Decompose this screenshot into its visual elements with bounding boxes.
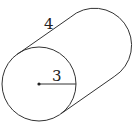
bottom-tangent-line [61, 77, 114, 114]
length-label: 4 [44, 15, 54, 33]
radius-label: 3 [52, 67, 62, 85]
cylinder-diagram: 4 3 [0, 0, 135, 124]
back-circle-arc [70, 8, 131, 76]
center-dot [37, 82, 40, 85]
